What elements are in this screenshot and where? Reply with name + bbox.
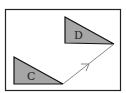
translation-diagram: C D [0,0,126,93]
label-d: D [74,29,83,42]
label-c: C [27,70,35,83]
